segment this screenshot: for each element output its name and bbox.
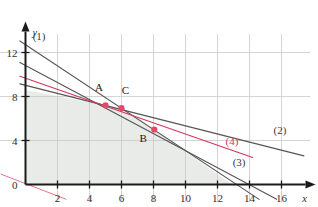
- y-tick-label: 0: [12, 179, 18, 191]
- point-label-C: C: [122, 84, 129, 96]
- x-tick-label: 6: [119, 192, 125, 204]
- x-tick-label: 2: [55, 192, 61, 204]
- data-point-C: [118, 105, 124, 111]
- y-tick-label: 8: [12, 91, 18, 103]
- feasible-region: [26, 90, 232, 185]
- line-label-3: (3): [233, 156, 246, 169]
- point-label-B: B: [139, 132, 146, 144]
- y-axis-arrowhead: [22, 22, 30, 32]
- x-axis-arrowhead: [306, 181, 316, 189]
- x-tick-label: 8: [151, 192, 157, 204]
- data-point-A: [102, 102, 108, 108]
- plot-svg: 24681012141604812xy(1)(2)(3)(4)ACB: [0, 0, 318, 207]
- x-axis-label: x: [301, 193, 307, 204]
- line-label-4: (4): [225, 135, 238, 148]
- point-label-A: A: [95, 81, 103, 93]
- line-label-2: (2): [273, 124, 286, 137]
- x-tick-label: 16: [276, 192, 288, 204]
- x-tick-label: 10: [180, 192, 192, 204]
- x-tick-label: 14: [244, 192, 256, 204]
- x-tick-label: 12: [212, 192, 223, 204]
- linear-programming-graph: 24681012141604812xy(1)(2)(3)(4)ACB: [0, 0, 318, 207]
- y-tick-label: 4: [12, 135, 18, 147]
- x-tick-label: 4: [87, 192, 93, 204]
- data-point-B: [151, 126, 157, 132]
- line-label-1: (1): [33, 30, 46, 43]
- y-tick-label: 12: [7, 47, 18, 59]
